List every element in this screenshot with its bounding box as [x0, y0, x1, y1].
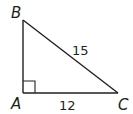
vertex-label-a: A	[10, 95, 21, 113]
side-label-bc: 15	[72, 43, 89, 58]
vertex-label-c: C	[118, 96, 129, 114]
right-triangle-diagram: B A C 15 12	[0, 0, 133, 114]
vertex-label-b: B	[11, 4, 21, 22]
side-bc-hypotenuse	[23, 20, 118, 93]
side-label-ac: 12	[59, 98, 76, 113]
right-angle-marker	[23, 81, 35, 93]
